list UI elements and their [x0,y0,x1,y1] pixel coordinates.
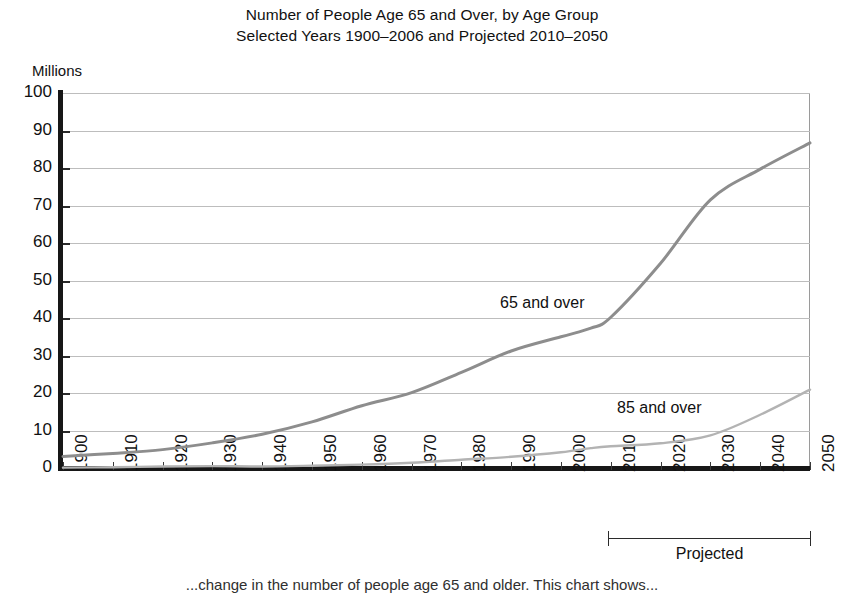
x-axis-tick-labels: 1900191019201930194019501960197019801990… [0,0,844,593]
projected-bracket-cap-left [608,531,609,546]
x-axis-tick-label: 1900 [72,454,92,472]
x-axis-tick-mark [163,462,164,470]
x-axis-tick-label: 1910 [122,454,142,472]
page-body-caption: ...change in the number of people age 65… [0,576,844,593]
x-axis-tick-mark [760,462,761,470]
x-axis-tick-mark [113,462,114,470]
x-axis-tick-label: 1950 [321,454,341,472]
series-label-65-and-over: 65 and over [497,293,588,313]
x-axis-tick-mark [611,462,612,470]
x-axis-tick-label: 1980 [470,454,490,472]
x-axis-tick-label: 2050 [819,454,839,472]
x-axis-tick-mark [262,462,263,470]
x-axis-tick-mark [312,462,313,470]
x-axis-tick-label: 1920 [172,454,192,472]
x-axis-tick-label: 2000 [570,454,590,472]
chart-figure: Number of People Age 65 and Over, by Age… [0,0,844,593]
x-axis-tick-label: 2020 [670,454,690,472]
x-axis-tick-label: 1940 [271,454,291,472]
projected-label: Projected [608,545,811,563]
x-axis-tick-label: 1970 [421,454,441,472]
series-label-85-and-over: 85 and over [614,398,705,418]
x-axis-tick-label: 1990 [520,454,540,472]
x-axis-tick-mark [561,462,562,470]
x-axis-tick-mark [810,462,811,470]
projected-bracket-cap-right [810,531,811,546]
x-axis-tick-mark [661,462,662,470]
x-axis-tick-label: 1960 [371,454,391,472]
x-axis-tick-mark [63,462,64,470]
x-axis-tick-label: 2030 [719,454,739,472]
x-axis-tick-mark [710,462,711,470]
x-axis-tick-label: 2010 [620,454,640,472]
x-axis-tick-label: 1930 [221,454,241,472]
x-axis-tick-mark [461,462,462,470]
x-axis-tick-mark [511,462,512,470]
projected-bracket-line [608,538,811,539]
x-axis-tick-mark [362,462,363,470]
x-axis-tick-label: 2040 [769,454,789,472]
x-axis-tick-mark [412,462,413,470]
x-axis-tick-mark [212,462,213,470]
